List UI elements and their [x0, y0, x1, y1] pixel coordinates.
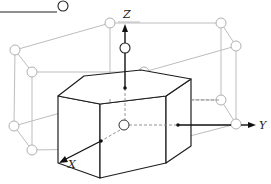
arrow-up-icon [122, 24, 128, 32]
atom-icon [120, 43, 130, 53]
atom-icon [9, 121, 19, 131]
atom-icon [216, 18, 226, 28]
atom-icon [231, 41, 241, 51]
atom-icon [10, 45, 20, 55]
center-atom-icon [119, 120, 129, 130]
hexagonal-lattice-diagram: Z Y X [0, 0, 271, 184]
atom-icon [27, 67, 37, 77]
leader-line [0, 1, 68, 12]
arrow-right-icon [248, 122, 256, 128]
atom-icon [58, 1, 68, 11]
atom-icon [27, 145, 37, 155]
x-axis-label: X [67, 158, 77, 171]
dot-icon [123, 86, 127, 90]
z-axis-label: Z [122, 8, 131, 21]
y-axis-label: Y [259, 119, 268, 132]
atom-icon [105, 18, 115, 28]
atom-icon [231, 119, 241, 129]
